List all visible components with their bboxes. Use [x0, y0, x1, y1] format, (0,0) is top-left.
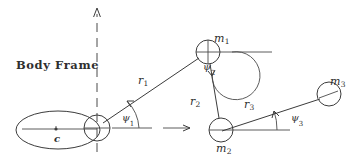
mass-1-label-sub: 1	[225, 37, 230, 46]
mass-3-crosshair-line	[319, 91, 338, 98]
link-r3-line	[222, 99, 320, 131]
angle-psi2-label: ψ2	[203, 62, 215, 75]
angle-psi3-label-base: ψ	[291, 112, 299, 123]
link-r1-label-base: r	[138, 74, 143, 87]
mass-2-label: m2	[216, 143, 231, 154]
body-frame-label: Body Frame	[16, 60, 99, 72]
angle-psi1-label-sub: 1	[130, 120, 134, 128]
mass-3-label-base: m	[330, 75, 340, 88]
mass-2-label-sub: 2	[227, 147, 232, 156]
mass-1-label-base: m	[214, 32, 224, 45]
link-r1-label: r1	[138, 75, 148, 86]
link-r1-label-sub: 1	[144, 79, 149, 88]
link-r3-label: r3	[244, 99, 254, 110]
angle-psi2-label-base: ψ	[203, 61, 211, 72]
angle-psi3-label-sub: 3	[299, 120, 303, 128]
angle-psi2-label-sub: 2	[211, 69, 215, 77]
mass-1-label: m1	[214, 33, 229, 44]
angle-psi1-label-base: ψ	[122, 112, 130, 123]
body-frame-linkage-diagram: Body Frame c r1 r2 r3 m1 m2 m3 ψ1 ψ2 ψ3	[0, 0, 358, 160]
link-r2-label-base: r	[190, 95, 195, 108]
link-r2-label: r2	[190, 96, 200, 107]
mass-3-label: m3	[330, 76, 345, 87]
link-r3-label-sub: 3	[250, 103, 255, 112]
mass-2-label-base: m	[216, 142, 226, 155]
center-of-mass-label: c	[54, 134, 60, 144]
angle-psi2-arc	[212, 52, 260, 100]
link-r3-label-base: r	[244, 98, 249, 111]
mass-3-label-sub: 3	[341, 80, 346, 89]
angle-psi3-label: ψ3	[291, 113, 303, 126]
angle-psi1-label: ψ1	[122, 113, 134, 126]
link-r1-line	[103, 58, 199, 123]
link-r2-label-sub: 2	[196, 100, 201, 109]
